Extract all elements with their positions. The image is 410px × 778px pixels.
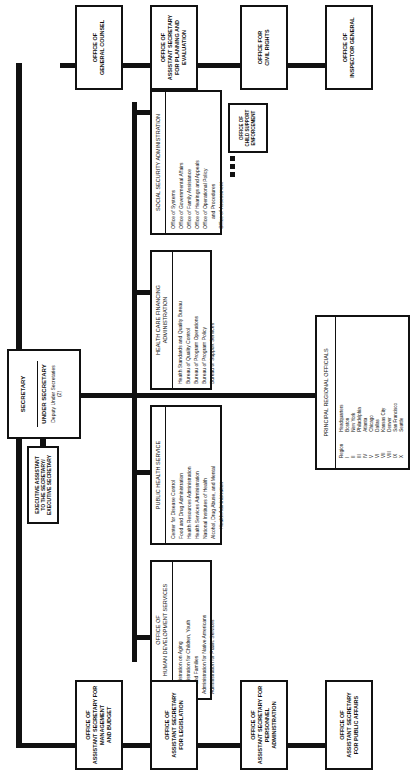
- line2: ASSISTANT SECRETARY FOR MANAGEMENT: [92, 684, 106, 766]
- item: Health Administration: [217, 411, 225, 539]
- line1: OFFICE OF: [342, 17, 349, 77]
- item: National Institutes of Health: [201, 411, 209, 539]
- division-human-development[interactable]: OFFICE OFHUMAN DEVELOPMENT SERVICES Admi…: [150, 560, 212, 700]
- item: Health Standards and Quality Bureau: [176, 256, 184, 384]
- line2: ASSISTANT SECRETARY: [346, 692, 353, 758]
- division-health-care-financing[interactable]: HEALTH CARE FINANCINGADMINISTRATION Heal…: [150, 250, 212, 390]
- item: Office of Assessment: [217, 96, 225, 229]
- connector-div-2: [132, 470, 152, 475]
- title1: OFFICE OF: [155, 564, 162, 696]
- deputy-count: (2): [56, 351, 62, 437]
- item: Administration for Public Services: [208, 566, 216, 694]
- secretary-box[interactable]: SECRETARY UNDER SECRETARY Deputy Under S…: [7, 349, 81, 439]
- item: Administration on Aging: [176, 566, 184, 694]
- title1: PUBLIC HEALTH SERVICE: [155, 409, 162, 541]
- connector-div-4: [132, 110, 152, 115]
- line3: AND BUDGET: [106, 684, 113, 766]
- line3: FOR PLANNING AND EVALUATION: [174, 9, 188, 86]
- line2: ASSISTANT SECRETARY FOR PERSONNEL: [257, 684, 271, 766]
- secretary-title: SECRETARY: [9, 351, 37, 437]
- line1: OFFICE OF: [164, 692, 171, 758]
- line3: ENFORCEMENT: [251, 110, 257, 147]
- executive-assistant-box[interactable]: EXECUTIVE ASSISTANTTO THE SECRETARY/EXEC…: [27, 446, 59, 524]
- region: X: [399, 444, 405, 458]
- line1: OFFICE OF: [92, 20, 99, 75]
- regional-connector: [297, 393, 317, 398]
- line1: OFFICE FOR: [257, 29, 264, 65]
- office-child-support[interactable]: OFFICE OFCHILD SUPPORTENFORCEMENT: [228, 103, 268, 153]
- office-public-affairs[interactable]: OFFICE OFASSISTANT SECRETARYFOR PUBLIC A…: [325, 680, 373, 770]
- left-vertical-top: [16, 63, 22, 68]
- item: Administration for Children, Youth: [184, 566, 192, 694]
- item: Bureau of Program Operations: [192, 256, 200, 384]
- office-legislation[interactable]: OFFICE OFASSISTANT SECRETARYFOR LEGISLAT…: [150, 680, 198, 770]
- item: Office of Operational Policy: [201, 96, 209, 229]
- office-civil-rights[interactable]: OFFICE FORCIVIL RIGHTS: [240, 5, 288, 90]
- deputy-under: Deputy Under Secretaries: [47, 351, 56, 437]
- title1: HEALTH CARE FINANCING: [155, 254, 162, 386]
- line1: OFFICE OF: [250, 684, 257, 766]
- line1: OFFICE OF: [160, 9, 167, 86]
- line2: INSPECTOR GENERAL: [349, 17, 356, 77]
- item: Alcohol, Drug Abuse, and Mental: [209, 411, 217, 539]
- division-public-health[interactable]: PUBLIC HEALTH SERVICE Center for Disease…: [150, 405, 222, 545]
- line3: ADMINISTRATION: [271, 684, 278, 766]
- office-personnel-administration[interactable]: OFFICE OFASSISTANT SECRETARY FOR PERSONN…: [240, 680, 288, 770]
- item: Bureau of Support Services: [208, 256, 216, 384]
- line2: ASSISTANT SECRETARY: [167, 9, 174, 86]
- connector-div-3: [132, 290, 152, 295]
- line2: ASSISTANT SECRETARY: [171, 692, 178, 758]
- item: Office of Systems: [169, 96, 177, 229]
- connector-div-1: [132, 635, 152, 640]
- regional-title: PRINCIPAL REGIONAL OFFICIALS: [317, 317, 336, 468]
- item: Office of Hearings and Appeals: [193, 96, 201, 229]
- regional-officials-box[interactable]: PRINCIPAL REGIONAL OFFICIALS Region I II…: [315, 315, 410, 470]
- left-vertical-bottom: [16, 438, 22, 746]
- top-horizontal-line: [16, 63, 22, 353]
- line3: FOR LEGISLATION: [178, 692, 185, 758]
- line1: OFFICE OF: [339, 692, 346, 758]
- title1: SOCIAL SECURITY ADMINISTRATION: [155, 94, 162, 231]
- office-management-budget[interactable]: OFFICE OFASSISTANT SECRETARY FOR MANAGEM…: [75, 680, 123, 770]
- division-social-security[interactable]: SOCIAL SECURITY ADMINISTRATION Office of…: [150, 90, 222, 235]
- item: and Families: [192, 566, 200, 694]
- item: Bureau of Quality Control: [184, 256, 192, 384]
- title2: HUMAN DEVELOPMENT SERVICES: [162, 564, 169, 696]
- title2: ADMINISTRATION: [162, 254, 169, 386]
- office-inspector-general[interactable]: OFFICE OFINSPECTOR GENERAL: [325, 5, 373, 90]
- item: Bureau of Program Policy: [200, 256, 208, 384]
- city: Seattle: [399, 403, 405, 432]
- line1: OFFICE OF: [85, 684, 92, 766]
- item: Health Services Administration: [193, 411, 201, 539]
- item: Food and Drug Administration: [177, 411, 185, 539]
- line3: EXECUTIVE SECRETARY: [46, 455, 52, 515]
- item: Office of Family Assistance: [185, 96, 193, 229]
- item: and Procedures: [209, 96, 217, 229]
- divisions-bar: [132, 102, 137, 662]
- line2: GENERAL COUNSEL: [99, 20, 106, 75]
- under-secretary-title: UNDER SECRETARY: [38, 351, 47, 437]
- office-general-counsel[interactable]: OFFICE OFGENERAL COUNSEL: [75, 5, 123, 90]
- item: Office of Governmental Affairs: [177, 96, 185, 229]
- office-planning-evaluation[interactable]: OFFICE OFASSISTANT SECRETARYFOR PLANNING…: [150, 5, 198, 90]
- line3: FOR PUBLIC AFFAIRS: [353, 692, 360, 758]
- item: Administration for Native Americans: [200, 566, 208, 694]
- item: Center for Disease Control: [169, 411, 177, 539]
- line2: CIVIL RIGHTS: [264, 29, 271, 65]
- item: Health Resources Administration: [185, 411, 193, 539]
